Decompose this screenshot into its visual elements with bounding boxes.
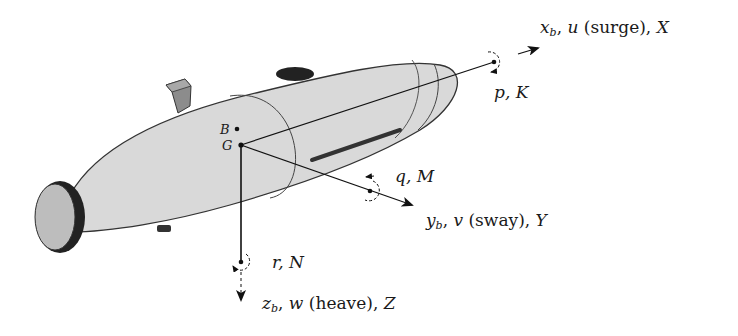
buoyancy-point xyxy=(235,127,240,132)
x-arrow-icon xyxy=(518,48,538,54)
x-axis-label: xb, u (surge), X xyxy=(540,17,670,39)
auv-frame-diagram: B G xb, u (surge), X p, K q, M yb, v (sw… xyxy=(0,0,738,336)
gravity-label: G xyxy=(222,138,232,153)
x-rotation-label: p, K xyxy=(494,82,530,102)
y-rotation-label: q, M xyxy=(395,166,435,186)
mast-fin xyxy=(166,79,191,113)
tail-thruster xyxy=(35,181,85,253)
y-axis-label: yb, v (sway), Y xyxy=(425,210,549,232)
top-hatch xyxy=(276,67,314,81)
buoyancy-label: B xyxy=(219,122,230,137)
z-rotation-label: r, N xyxy=(272,252,305,272)
z-axis-label: zb, w (heave), Z xyxy=(261,293,397,315)
bottom-skid xyxy=(157,225,171,232)
auv-hull xyxy=(70,60,457,232)
